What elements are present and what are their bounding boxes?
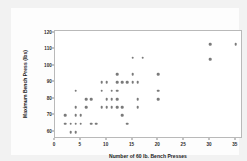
data-point xyxy=(121,106,124,109)
data-point xyxy=(116,106,119,109)
data-point xyxy=(116,73,119,76)
scatter-plot-figure: Maximum Bench Press (lbs) 60708090100110… xyxy=(0,0,247,161)
y-axis-label: Maximum Bench Press (lbs) xyxy=(22,50,28,118)
data-point xyxy=(209,58,212,61)
y-tick-label: 120 xyxy=(44,29,52,34)
data-point xyxy=(80,122,83,125)
data-point xyxy=(131,81,134,84)
y-tick-label: 110 xyxy=(44,46,52,51)
x-tick-label: 5 xyxy=(79,142,82,147)
data-point xyxy=(126,122,129,125)
data-point xyxy=(95,122,98,125)
data-point xyxy=(157,89,160,92)
data-point xyxy=(116,89,119,92)
data-point xyxy=(116,98,119,101)
x-tick-mark xyxy=(105,138,106,140)
data-point xyxy=(69,131,72,134)
data-point xyxy=(209,43,212,46)
x-tick-mark xyxy=(209,138,210,140)
x-tick-label: 10 xyxy=(103,142,108,147)
data-point xyxy=(136,98,139,101)
data-point xyxy=(136,106,139,109)
x-tick-label: 30 xyxy=(206,142,211,147)
data-point xyxy=(90,98,93,101)
data-point xyxy=(74,89,77,92)
x-tick-label: 0 xyxy=(53,142,56,147)
data-point xyxy=(121,114,124,117)
y-axis-tick-labels: 60708090100110120 xyxy=(39,30,52,138)
x-tick-mark xyxy=(183,138,184,140)
data-point xyxy=(105,106,108,109)
data-point xyxy=(64,122,67,125)
y-tick-label: 100 xyxy=(44,62,52,67)
data-point xyxy=(105,81,108,84)
data-point xyxy=(80,114,83,117)
x-axis-tick-labels: 05101520253035 xyxy=(54,138,242,150)
data-point xyxy=(74,122,77,125)
x-tick-label: 35 xyxy=(232,142,237,147)
x-tick-label: 20 xyxy=(155,142,160,147)
data-point xyxy=(142,56,145,59)
data-point xyxy=(85,106,88,109)
data-point xyxy=(90,122,93,125)
data-point xyxy=(74,106,77,109)
x-tick-mark xyxy=(131,138,132,140)
data-point xyxy=(157,73,160,76)
data-point xyxy=(85,98,88,101)
plot-area xyxy=(54,30,242,138)
x-tick-mark xyxy=(157,138,158,140)
data-point xyxy=(157,98,160,101)
data-point xyxy=(121,81,124,84)
data-point xyxy=(74,131,77,134)
x-tick-mark xyxy=(54,138,55,140)
data-point xyxy=(126,81,129,84)
data-point xyxy=(100,81,103,84)
data-point xyxy=(116,81,119,84)
data-point xyxy=(111,89,114,92)
x-axis-label: Number of 60 lb. Bench Presses xyxy=(109,153,187,159)
x-tick-label: 25 xyxy=(181,142,186,147)
data-point xyxy=(69,122,72,125)
data-point xyxy=(136,81,139,84)
data-point xyxy=(64,114,67,117)
data-point xyxy=(100,106,103,109)
data-point xyxy=(235,43,238,46)
data-point xyxy=(131,56,134,59)
x-tick-label: 15 xyxy=(129,142,134,147)
figure-canvas: Maximum Bench Press (lbs) 60708090100110… xyxy=(11,8,239,155)
x-tick-mark xyxy=(234,138,235,140)
data-point xyxy=(111,106,114,109)
data-point xyxy=(74,114,77,117)
data-point xyxy=(105,98,108,101)
data-point xyxy=(111,98,114,101)
x-tick-mark xyxy=(79,138,80,140)
data-point xyxy=(131,73,134,76)
data-point xyxy=(100,89,103,92)
